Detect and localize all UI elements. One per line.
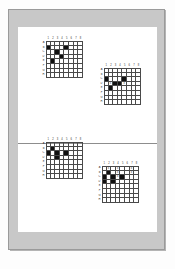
grid-cell[interactable]: [136, 100, 141, 105]
grid: 12345678ABCDxxEFGH: [99, 63, 141, 105]
puzzle-bottom-left[interactable]: 12345678ABCDEFGH: [41, 137, 83, 179]
grid-cell[interactable]: [134, 198, 139, 203]
puzzle-bottom-right[interactable]: 12345678AxxxBxxCxDEFGH: [97, 161, 139, 203]
scanned-page: 12345678ABCDEFGH 12345678ABCDxxEFGH 1234…: [0, 0, 175, 269]
page-border-frame: 12345678ABCDEFGH 12345678ABCDxxEFGH 1234…: [8, 9, 165, 250]
puzzle-top-left[interactable]: 12345678ABCDEFGH: [41, 36, 83, 78]
grid-cell[interactable]: [78, 73, 83, 78]
grid: 12345678AxxxBxxCxDEFGH: [97, 161, 139, 203]
grid-cell[interactable]: [78, 174, 83, 179]
page-content-area: 12345678ABCDEFGH 12345678ABCDxxEFGH 1234…: [18, 27, 157, 232]
page-shadow-right: [165, 10, 166, 251]
section-divider: [18, 143, 157, 144]
grid: 12345678ABCDEFGH: [41, 36, 83, 78]
grid: 12345678ABCDEFGH: [41, 137, 83, 179]
page-shadow-bottom: [10, 250, 166, 251]
puzzle-top-right[interactable]: 12345678ABCDxxEFGH: [99, 63, 141, 105]
